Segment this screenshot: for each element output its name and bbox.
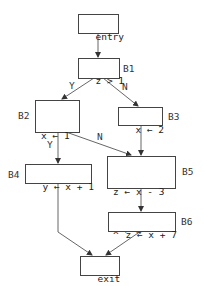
node-b6: z ← x + 7	[108, 212, 176, 232]
edge-label-b1-yes: Y	[69, 80, 75, 91]
node-entry: entry	[78, 14, 119, 34]
node-b3-line-1: x ← 2	[135, 124, 164, 135]
node-b2-label: B2	[18, 110, 29, 121]
node-exit-text: exit	[97, 273, 120, 284]
node-b6-line-1: z ← x + 7	[125, 229, 176, 240]
node-b2: x ← 1 z > 2	[35, 100, 80, 133]
edge-label-b2-yes: Y	[47, 139, 53, 150]
node-b1: z > 1	[78, 58, 120, 79]
node-b1-label: B1	[123, 63, 134, 74]
node-b4: y ← x + 1	[25, 164, 92, 184]
edge-label-b1-no: N	[122, 81, 128, 92]
node-b3: x ← 2	[118, 107, 163, 126]
edge-label-b2-no: N	[97, 131, 103, 142]
node-exit: exit	[80, 256, 120, 276]
node-b4-line-1: y ← x + 1	[42, 181, 93, 192]
edge-b4-exit	[58, 184, 92, 255]
node-b2-line-1: x ← 1	[41, 129, 74, 142]
node-entry-text: entry	[95, 31, 124, 42]
node-b1-line-1: z > 1	[95, 75, 124, 86]
node-b5: z ← x - 3 x ← 4	[107, 156, 176, 189]
node-b5-label: B5	[182, 166, 193, 177]
node-b3-label: B3	[168, 111, 179, 122]
node-b4-label: B4	[8, 169, 19, 180]
node-b5-line-1: z ← x - 3	[113, 185, 170, 198]
node-b6-label: B6	[181, 216, 192, 227]
